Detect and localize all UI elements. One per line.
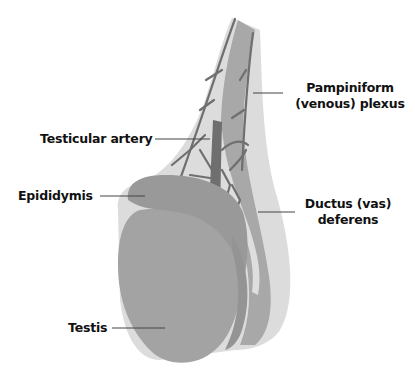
label-pampiniform-line1: Pampiniform — [287, 80, 413, 96]
label-ductus-line1: Ductus (vas) — [298, 196, 398, 212]
label-pampiniform-plexus: Pampiniform (venous) plexus — [287, 80, 413, 112]
label-ductus-deferens: Ductus (vas) deferens — [298, 196, 398, 228]
label-testis: Testis — [68, 320, 107, 336]
label-epididymis: Epididymis — [18, 188, 93, 204]
label-ductus-line2: deferens — [298, 212, 398, 228]
label-pampiniform-line2: (venous) plexus — [287, 96, 413, 112]
label-testicular-artery: Testicular artery — [40, 131, 153, 147]
